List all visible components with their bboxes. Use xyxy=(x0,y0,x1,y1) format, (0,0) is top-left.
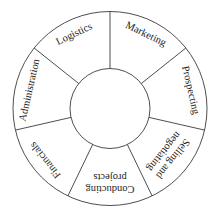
inner-circle xyxy=(70,69,150,149)
ring-diagram: MarketingProspectingSelling andnegotiati… xyxy=(0,0,219,215)
segment-conducting-projects: Conductingprojects xyxy=(85,172,135,195)
segment-prospecting: Prospecting xyxy=(180,65,202,117)
segment-label: Financials xyxy=(27,140,63,181)
segment-selling-and-negotiating: Selling andnegotiating xyxy=(145,130,193,182)
segment-label: Administration xyxy=(17,57,42,122)
segment-logistics: Logistics xyxy=(54,20,93,47)
segment-label: Logistics xyxy=(54,20,93,47)
segment-label: Conducting xyxy=(85,184,135,195)
segment-label: Prospecting xyxy=(180,65,202,117)
segment-administration: Administration xyxy=(17,57,42,122)
segment-financials: Financials xyxy=(27,140,63,181)
segment-divider xyxy=(149,117,205,130)
segment-marketing: Marketing xyxy=(124,19,169,48)
segment-label: projects xyxy=(93,172,126,183)
segment-labels: MarketingProspectingSelling andnegotiati… xyxy=(17,19,203,195)
segment-divider xyxy=(141,48,186,84)
segment-divider xyxy=(34,48,79,84)
segment-label: Marketing xyxy=(124,19,169,48)
